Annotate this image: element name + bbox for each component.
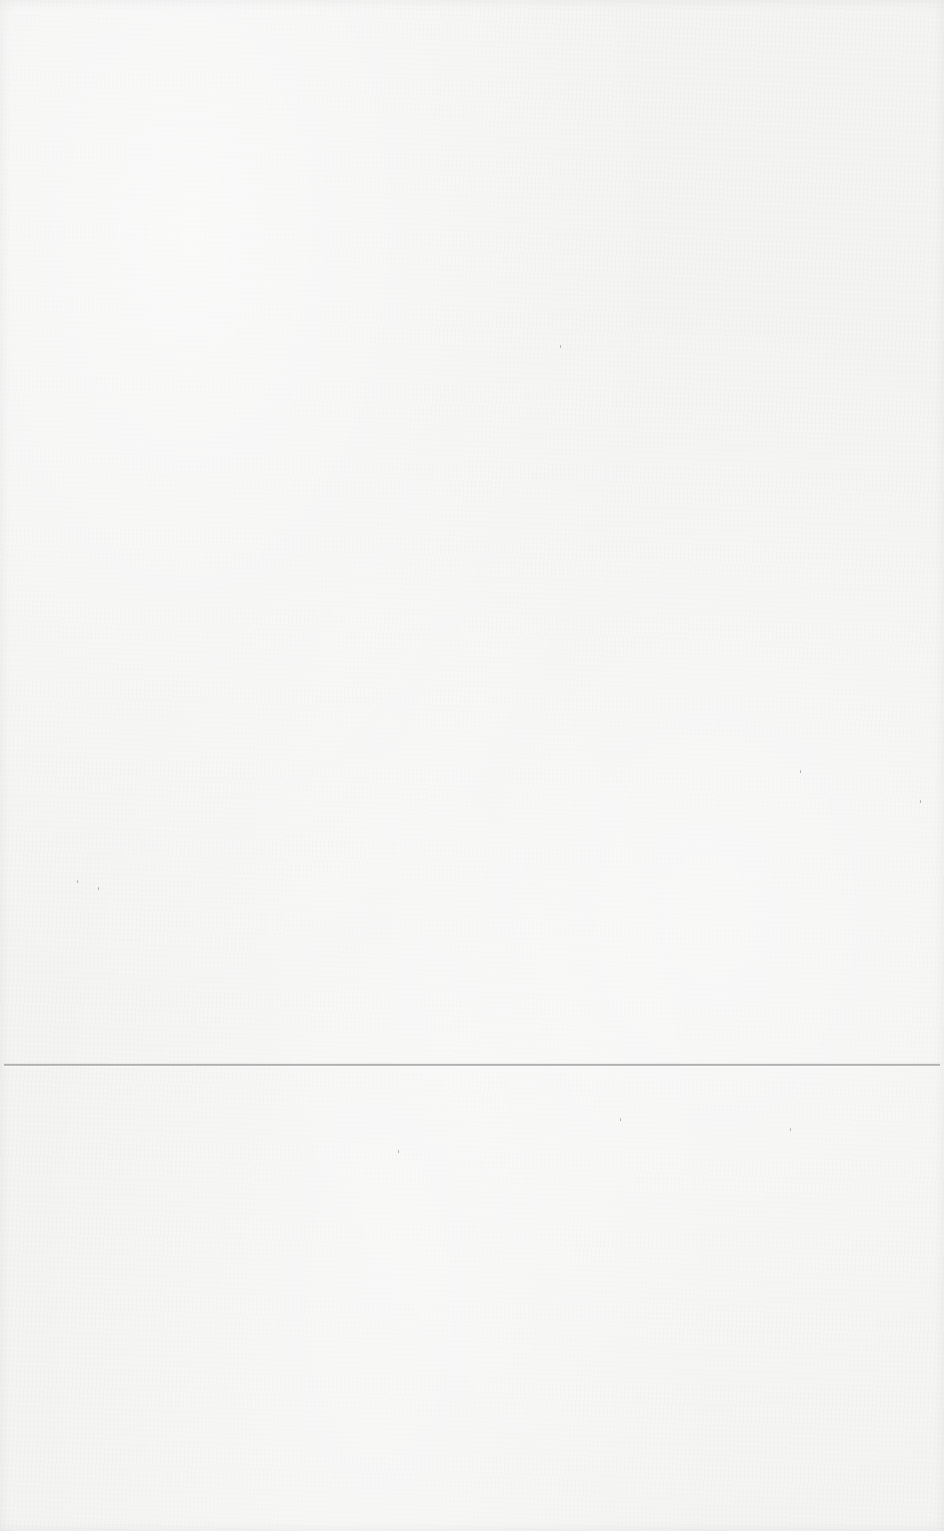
paper-speck (920, 800, 921, 803)
paper-speck (77, 880, 78, 883)
paper-speck (800, 770, 801, 773)
paper-speck (98, 887, 99, 890)
fold-crease-line (4, 1064, 940, 1066)
paper-speck (560, 345, 561, 348)
paper-speck (398, 1150, 399, 1153)
paper-sheet (0, 0, 944, 1531)
paper-speck (620, 1118, 621, 1121)
paper-speck (790, 1128, 791, 1131)
